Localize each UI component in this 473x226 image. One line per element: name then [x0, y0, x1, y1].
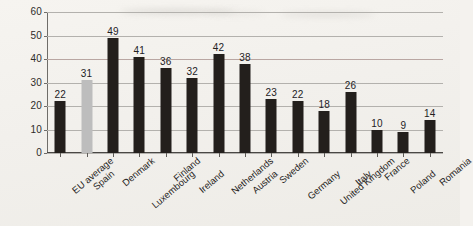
x-axis-category-label-text: Denmark — [120, 155, 157, 188]
bar-value-label: 42 — [213, 42, 225, 53]
bar-value-label: 26 — [345, 80, 357, 91]
bar-value-label: 10 — [371, 118, 383, 129]
bar-slot: 10 — [364, 12, 390, 153]
bar-slot: 9 — [390, 12, 416, 153]
bar-value-label: 22 — [54, 89, 66, 100]
bar — [319, 111, 330, 153]
bar — [81, 80, 92, 153]
bar — [292, 101, 303, 153]
y-axis-tick-label: 20 — [30, 100, 42, 111]
bar — [134, 57, 145, 153]
bar — [345, 92, 356, 153]
bar-slot: 22 — [285, 12, 311, 153]
bar-slot: 23 — [258, 12, 284, 153]
bar-value-label: 38 — [239, 52, 251, 63]
y-axis-tick-label: 0 — [36, 147, 42, 158]
bar-slot: 49 — [100, 12, 126, 153]
x-axis-category-label-text: Romania — [437, 155, 473, 188]
bar-slot: 26 — [337, 12, 363, 153]
x-axis-category-label-text: Poland — [408, 168, 438, 195]
y-axis-tick-mark — [44, 153, 47, 154]
x-axis-category-label-text: Sweden — [277, 155, 310, 186]
bar-value-label: 22 — [292, 89, 304, 100]
bar-slot: 32 — [179, 12, 205, 153]
bar — [55, 101, 66, 153]
bar-slot: 41 — [126, 12, 152, 153]
y-axis-tick-label: 40 — [30, 53, 42, 64]
bar — [266, 99, 277, 153]
x-axis-category-label-text: Ireland — [197, 168, 226, 195]
bar — [107, 38, 118, 153]
bar — [398, 132, 409, 153]
y-axis-tick-label: 10 — [30, 124, 42, 135]
bar — [239, 64, 250, 153]
bar-value-label: 23 — [266, 87, 278, 98]
bar-slot: 36 — [153, 12, 179, 153]
plot-area: 0102030405060 22314941363242382322182610… — [47, 12, 443, 153]
bar — [371, 130, 382, 154]
bar-value-label: 9 — [400, 120, 406, 131]
x-axis-category-label: Ireland — [197, 168, 226, 195]
bar-value-label: 31 — [81, 68, 93, 79]
y-axis-tick-label: 30 — [30, 77, 42, 88]
bar-value-label: 36 — [160, 56, 172, 67]
bar-series: 22314941363242382322182610914 — [47, 12, 443, 153]
bar-slot: 42 — [205, 12, 231, 153]
x-axis-category-label: Germany — [305, 168, 342, 202]
bar-slot: 14 — [417, 12, 443, 153]
bar-slot: 38 — [232, 12, 258, 153]
x-axis-labels: EU averageSpainDenmarkLuxembourgFinlandI… — [47, 155, 443, 225]
bar-value-label: 49 — [107, 26, 119, 37]
bar — [213, 54, 224, 153]
x-axis-category-label: Sweden — [277, 155, 310, 186]
bar-slot: 18 — [311, 12, 337, 153]
bar — [424, 120, 435, 153]
bar-value-label: 14 — [424, 108, 436, 119]
x-axis-category-label: Denmark — [120, 155, 157, 188]
x-axis-category-label: Romania — [437, 155, 473, 188]
bar-value-label: 41 — [134, 45, 146, 56]
bar-value-label: 18 — [318, 99, 330, 110]
bar-value-label: 32 — [186, 66, 198, 77]
bar — [160, 68, 171, 153]
x-axis-category-label-text: Germany — [305, 168, 342, 202]
bar-slot: 31 — [73, 12, 99, 153]
bar — [187, 78, 198, 153]
bar-slot: 22 — [47, 12, 73, 153]
y-axis-tick-label: 50 — [30, 30, 42, 41]
y-axis-tick-label: 60 — [30, 6, 42, 17]
x-axis-category-label: Poland — [408, 168, 438, 195]
